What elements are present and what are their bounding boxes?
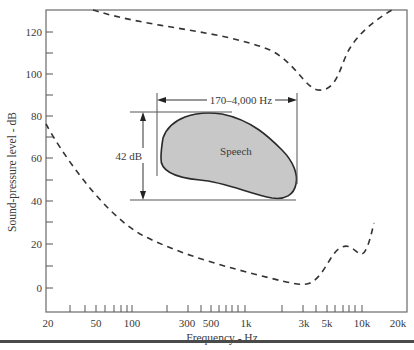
- y-tick-100: 100: [26, 68, 43, 80]
- x-tick-100: 100: [124, 317, 141, 329]
- x-tick-20k: 20k: [390, 317, 407, 329]
- x-axis-labels: 20 50 100 300 500 1k 3k 5k 10k 20k: [43, 317, 407, 329]
- y-tick-60: 60: [31, 152, 43, 164]
- y-tick-80: 80: [31, 110, 43, 122]
- x-tick-20: 20: [43, 317, 55, 329]
- y-tick-40: 40: [31, 195, 43, 207]
- y-axis-title: Sound-pressure level - dB: [6, 112, 19, 232]
- y-tick-120: 120: [26, 26, 43, 38]
- bottom-rule: [0, 340, 414, 343]
- x-tick-3k: 3k: [299, 317, 311, 329]
- x-tick-1k: 1k: [241, 317, 253, 329]
- x-tick-10k: 10k: [354, 317, 371, 329]
- x-tick-5k: 5k: [322, 317, 334, 329]
- x-axis-title: Frequency - Hz: [186, 332, 258, 345]
- y-tick-0: 0: [37, 282, 43, 294]
- x-tick-300: 300: [179, 317, 196, 329]
- audibility-chart: 120 100 80 60 40 20 0 20: [0, 0, 414, 350]
- y-axis-labels: 120 100 80 60 40 20 0: [26, 26, 43, 294]
- x-tick-500: 500: [203, 317, 220, 329]
- y-axis-ticks: [46, 32, 53, 288]
- db-range-label: 42 dB: [115, 150, 142, 162]
- speech-label: Speech: [220, 145, 252, 157]
- x-tick-50: 50: [91, 317, 103, 329]
- x-axis-ticks: [70, 305, 362, 312]
- pain-threshold-curve: [93, 10, 392, 90]
- freq-range-label: 170–4,000 Hz: [210, 94, 272, 106]
- y-tick-20: 20: [31, 238, 43, 250]
